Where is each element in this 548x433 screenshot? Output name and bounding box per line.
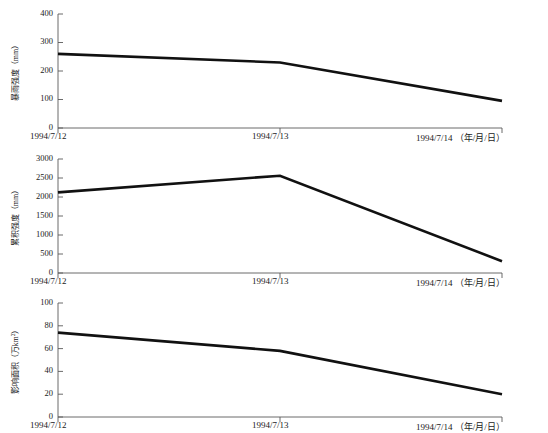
y-tick-label-80: 80: [45, 320, 54, 330]
x-tick-label-right: 1994/7/14 （年/月/日）: [416, 276, 505, 289]
panel-2-svg: 0 500 1000 1500 2000 2500 3000 累积强度（mm）: [0, 145, 548, 289]
x-tick-label-right: 1994/7/14 （年/月/日）: [416, 131, 505, 144]
panel-3-svg: 0 20 40 60 80 100 影响面积（万km2）: [0, 289, 548, 433]
y-tick-label-100: 100: [40, 297, 53, 307]
x-tick-label-mid: 1994/7/13: [252, 131, 289, 141]
y-tick-label-20: 20: [45, 388, 54, 398]
y-tick-label-500: 500: [40, 248, 53, 258]
chart-panel-rainfall-intensity: 0 100 200 300 400 暴雨强度（mm） 1994/7/12 199…: [0, 0, 548, 144]
y-tick-label-100: 100: [40, 93, 53, 103]
y-tick-label-1500: 1500: [36, 210, 53, 220]
y-tick-label-3000: 3000: [36, 153, 53, 163]
chart-panel-cumulative-intensity: 0 500 1000 1500 2000 2500 3000 累积强度（mm） …: [0, 145, 548, 289]
x-tick-label-mid: 1994/7/13: [252, 420, 289, 430]
y-tick-label-1000: 1000: [36, 229, 53, 239]
multi-panel-line-chart-figure: 0 100 200 300 400 暴雨强度（mm） 1994/7/12 199…: [0, 0, 548, 433]
y-tick-label-40: 40: [45, 365, 54, 375]
y-tick-label-2500: 2500: [36, 172, 53, 182]
y-axis-label: 暴雨强度（mm）: [10, 41, 20, 101]
chart-panel-affected-area: 0 20 40 60 80 100 影响面积（万km2） 1994/7/12 1…: [0, 289, 548, 433]
y-tick-label-400: 400: [40, 8, 53, 18]
x-tick-label-left: 1994/7/12: [30, 420, 67, 430]
y-axis-label: 影响面积（万km2）: [10, 326, 20, 395]
y-tick-label-300: 300: [40, 36, 53, 46]
x-tick-label-mid: 1994/7/13: [252, 276, 289, 286]
y-tick-label-200: 200: [40, 65, 53, 75]
data-series-line: [58, 54, 502, 101]
y-axis-label-main: 影响面积（万km: [10, 335, 20, 394]
y-tick-label-2000: 2000: [36, 191, 53, 201]
x-tick-label-left: 1994/7/12: [30, 276, 67, 286]
y-tick-label-60: 60: [45, 343, 54, 353]
data-series-line: [58, 176, 502, 262]
data-series-line: [58, 333, 502, 395]
panel-1-svg: 0 100 200 300 400 暴雨强度（mm）: [0, 0, 548, 144]
x-tick-label-left: 1994/7/12: [30, 131, 67, 141]
y-axis-label-tail: ）: [11, 326, 20, 334]
x-tick-label-right: 1994/7/14 （年/月/日）: [416, 420, 505, 433]
y-axis-label: 累积强度（mm）: [10, 186, 20, 246]
